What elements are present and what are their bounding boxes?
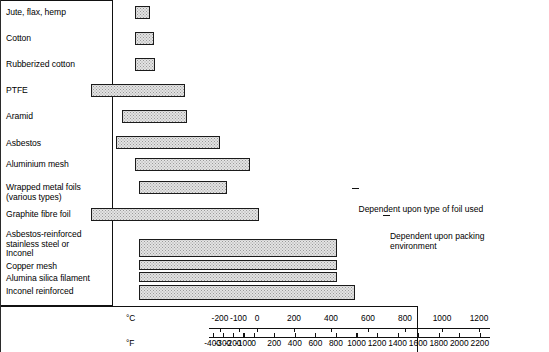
fahrenheit-unit-label: °F [126, 339, 134, 348]
axis-tick [295, 333, 296, 337]
axis-tick [377, 333, 378, 337]
axis-tick [439, 333, 440, 337]
axis-line [209, 328, 490, 329]
bar [135, 158, 250, 171]
axis-tick-label: 2200 [470, 339, 489, 348]
axis-tick [223, 333, 224, 337]
axis-tick [254, 333, 255, 337]
bar [139, 239, 337, 257]
axis-tick [315, 333, 316, 337]
bar [139, 181, 228, 194]
axis-tick-label: 0 [255, 314, 260, 323]
annotation-foil-type: Dependent upon type of foil used [359, 184, 484, 214]
axis-tick-label: 400 [288, 339, 302, 348]
axis-tick [418, 333, 419, 337]
axis-tick [294, 328, 295, 332]
bar [135, 58, 155, 71]
bar [139, 272, 337, 282]
axis-tick [479, 328, 480, 332]
axis-tick-label: -200 [212, 314, 229, 323]
axis-tick-label: 1000 [347, 339, 366, 348]
axis-tick [213, 333, 214, 337]
axis-tick-label: 1200 [368, 339, 387, 348]
axis-tick [459, 333, 460, 337]
axis-tick [274, 333, 275, 337]
axis-tick [398, 333, 399, 337]
axis-tick [368, 328, 369, 332]
axis-tick [336, 333, 337, 337]
celsius-unit-label: °C [126, 314, 135, 323]
axis-tick [243, 333, 244, 337]
axis-tick-label: 200 [287, 314, 301, 323]
chart-container: Jute, flax, hemp Cotton Rubberized cotto… [0, 0, 549, 352]
bar [116, 136, 221, 149]
axis-tick-label: 0 [251, 339, 256, 348]
axis-tick-label: 800 [398, 314, 412, 323]
axis-tick-label: -100 [230, 314, 247, 323]
axis-tick-label: 1600 [409, 339, 428, 348]
axis-tick-label: 400 [324, 314, 338, 323]
axis-tick-label: 2000 [450, 339, 469, 348]
axis-tick [480, 333, 481, 337]
axis-tick-label: 1000 [433, 314, 452, 323]
axis-tick [220, 328, 221, 332]
axis-tick-label: 1400 [388, 339, 407, 348]
axis-tick [442, 328, 443, 332]
bar [135, 6, 150, 19]
bar [122, 110, 187, 123]
axis-tick-label: 200 [267, 339, 281, 348]
annotation-packing-environment: Dependent upon packing environment [390, 211, 485, 251]
axis-tick-label: 1200 [470, 314, 489, 323]
axis-tick-label: 600 [361, 314, 375, 323]
axis-tick-label: -100 [235, 339, 252, 348]
leader-line [383, 215, 390, 216]
bar [139, 285, 355, 300]
axis-tick [239, 328, 240, 332]
bar [91, 84, 185, 97]
axis-tick [405, 328, 406, 332]
leader-line [352, 188, 359, 189]
bar [135, 32, 154, 45]
bar [139, 260, 337, 270]
axis-area: °C °F -200-100020040060080010001200-400-… [0, 312, 549, 352]
axis-tick-label: 800 [329, 339, 343, 348]
axis-tick-label: 1800 [429, 339, 448, 348]
axis-tick [331, 328, 332, 332]
axis-tick [257, 328, 258, 332]
bar-layer [0, 0, 549, 352]
axis-tick [233, 333, 234, 337]
annotation-text: Dependent upon packing environment [390, 231, 485, 251]
axis-tick-label: 600 [308, 339, 322, 348]
axis-tick [356, 333, 357, 337]
bar [91, 208, 259, 221]
